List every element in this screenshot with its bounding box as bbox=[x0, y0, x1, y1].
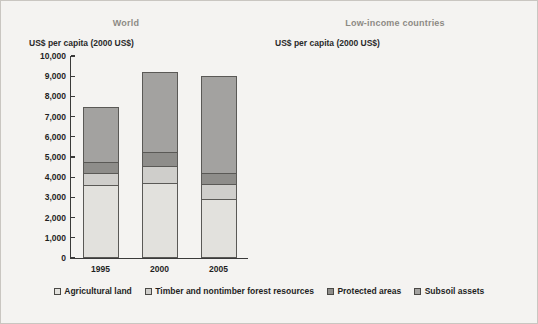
panel-low-income-y-axis-label: US$ per capita (2000 US$) bbox=[275, 38, 380, 48]
panel-world-y-axis-label: US$ per capita (2000 US$) bbox=[29, 38, 134, 48]
world-ytick-6: 4,000 bbox=[45, 172, 71, 182]
world-segment-2005-3[interactable] bbox=[201, 76, 237, 173]
world-ytick-1: 9,000 bbox=[45, 71, 71, 81]
world-xtick-1995: 1995 bbox=[91, 264, 110, 274]
panel-world-title: World bbox=[6, 18, 246, 28]
world-segment-1995-2[interactable] bbox=[83, 162, 119, 173]
legend-item-protected_areas[interactable]: Protected areas bbox=[327, 286, 401, 296]
world-ytick-8: 2,000 bbox=[45, 213, 71, 223]
world-ytick-5: 5,000 bbox=[45, 152, 71, 162]
world-ytick-4: 6,000 bbox=[45, 132, 71, 142]
legend-label-subsoil_assets: Subsoil assets bbox=[425, 286, 485, 296]
world-ytick-0: 10,000 bbox=[40, 51, 71, 61]
legend-label-agricultural_land: Agricultural land bbox=[64, 286, 132, 296]
world-bar-2005[interactable] bbox=[201, 76, 237, 258]
panel-low-income: Low-income countries US$ per capita (200… bbox=[266, 0, 538, 282]
world-ytick-9: 1,000 bbox=[45, 233, 71, 243]
world-ytick-10: 0 bbox=[61, 253, 71, 263]
world-segment-2005-2[interactable] bbox=[201, 173, 237, 184]
legend-swatch-subsoil_assets bbox=[414, 288, 421, 295]
legend-item-agricultural_land[interactable]: Agricultural land bbox=[54, 286, 132, 296]
world-segment-2005-0[interactable] bbox=[201, 199, 237, 258]
legend-label-timber_forest: Timber and nontimber forest resources bbox=[155, 286, 314, 296]
plot-area-world: 10,0009,0008,0007,0006,0005,0004,0003,00… bbox=[70, 56, 248, 259]
chart-figure: World US$ per capita (2000 US$) 10,0009,… bbox=[0, 0, 538, 324]
world-segment-1995-3[interactable] bbox=[83, 107, 119, 163]
panel-low-income-title: Low-income countries bbox=[270, 18, 520, 28]
world-segment-2005-1[interactable] bbox=[201, 184, 237, 199]
legend-swatch-agricultural_land bbox=[54, 288, 61, 295]
world-segment-1995-1[interactable] bbox=[83, 173, 119, 185]
legend-swatch-timber_forest bbox=[145, 288, 152, 295]
chart-legend: Agricultural landTimber and nontimber fo… bbox=[0, 286, 538, 296]
world-segment-2000-3[interactable] bbox=[142, 72, 178, 151]
world-bar-2000[interactable] bbox=[142, 72, 178, 258]
legend-item-timber_forest[interactable]: Timber and nontimber forest resources bbox=[145, 286, 314, 296]
world-segment-2000-1[interactable] bbox=[142, 166, 178, 183]
world-xtick-2000: 2000 bbox=[150, 264, 169, 274]
world-ytick-7: 3,000 bbox=[45, 192, 71, 202]
world-ytick-2: 8,000 bbox=[45, 91, 71, 101]
world-xtick-2005: 2005 bbox=[209, 264, 228, 274]
panel-world: World US$ per capita (2000 US$) 10,0009,… bbox=[0, 0, 268, 282]
legend-label-protected_areas: Protected areas bbox=[337, 286, 401, 296]
world-bar-1995[interactable] bbox=[83, 107, 119, 259]
world-segment-2000-0[interactable] bbox=[142, 183, 178, 258]
world-segment-1995-0[interactable] bbox=[83, 185, 119, 258]
world-ytick-3: 7,000 bbox=[45, 112, 71, 122]
legend-item-subsoil_assets[interactable]: Subsoil assets bbox=[414, 286, 484, 296]
world-segment-2000-2[interactable] bbox=[142, 152, 178, 167]
legend-swatch-protected_areas bbox=[327, 288, 334, 295]
